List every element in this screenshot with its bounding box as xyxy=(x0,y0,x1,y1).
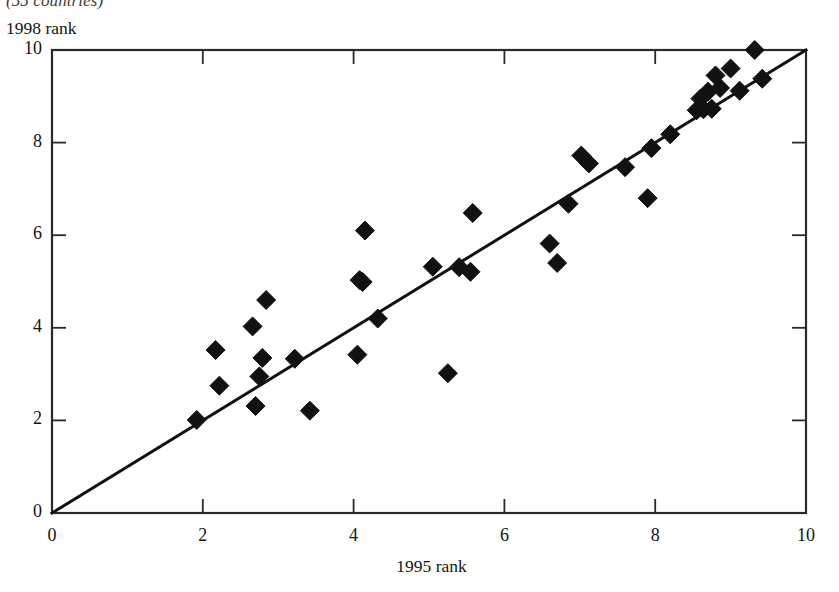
data-point xyxy=(616,158,635,177)
y-tick-label: 10 xyxy=(8,38,42,59)
x-axis-title-row: 1995 rank xyxy=(0,556,839,577)
y-tick-label: 8 xyxy=(8,131,42,152)
y-tick-label: 2 xyxy=(8,408,42,429)
data-point xyxy=(206,341,225,360)
x-axis-title: 1995 rank xyxy=(396,556,466,577)
x-tick-label: 6 xyxy=(487,525,521,546)
data-point xyxy=(540,234,559,253)
y-tick-label: 4 xyxy=(8,316,42,337)
plot-area: 02468100246810 xyxy=(0,0,839,592)
data-point xyxy=(253,348,272,367)
data-point xyxy=(463,203,482,222)
y-tick-label: 0 xyxy=(8,501,42,522)
data-point xyxy=(548,253,567,272)
data-point xyxy=(423,257,442,276)
data-point xyxy=(730,81,749,100)
x-tick-label: 2 xyxy=(186,525,220,546)
data-point xyxy=(210,376,229,395)
data-point xyxy=(559,194,578,213)
x-tick-label: 10 xyxy=(789,525,823,546)
data-point xyxy=(638,189,657,208)
data-point xyxy=(285,349,304,368)
data-point xyxy=(348,345,367,364)
data-point xyxy=(300,401,319,420)
scatter-plot-svg xyxy=(0,0,839,592)
data-point xyxy=(438,364,457,383)
x-tick-label: 8 xyxy=(638,525,672,546)
data-point xyxy=(246,397,265,416)
series-0 xyxy=(187,41,772,430)
data-point xyxy=(368,309,387,328)
data-point xyxy=(355,221,374,240)
chart-page: (55 countries) 1998 rank 02468100246810 … xyxy=(0,0,839,592)
data-point xyxy=(243,317,262,336)
x-tick-label: 0 xyxy=(35,525,69,546)
x-tick-label: 4 xyxy=(337,525,371,546)
y-tick-label: 6 xyxy=(8,223,42,244)
data-point xyxy=(745,41,764,60)
reference-line-45deg xyxy=(52,50,806,513)
data-point xyxy=(257,291,276,310)
